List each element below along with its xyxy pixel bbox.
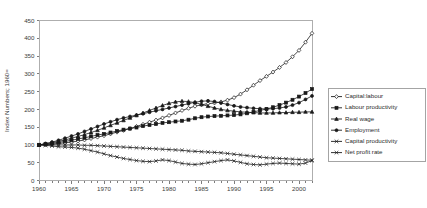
y-tick-label: 100 [24,141,35,148]
legend-label: Real wage [345,115,375,122]
y-tick-label: 400 [24,34,35,41]
y-axis: 050100150200250300350400450 [24,17,39,184]
x-tick-label: 2000 [292,185,306,192]
y-axis-title: Index Numbers; 1960= [3,69,10,132]
x-tick-label: 1970 [97,185,111,192]
legend-label: Net profit rate [345,148,383,155]
chart-container: 050100150200250300350400450 196019651970… [0,0,427,208]
legend-label: Capital productivity [345,137,398,144]
line-chart: 050100150200250300350400450 196019651970… [0,0,427,208]
y-tick-label: 350 [24,52,35,59]
x-axis: 196019651970197519801985199019952000 [32,181,312,193]
y-tick-label: 150 [24,123,35,130]
y-tick-label: 250 [24,88,35,95]
legend-label: Capital:labour [345,92,383,99]
series-capital-productivity [37,143,314,162]
legend-label: Labour productivity [345,103,398,110]
y-tick-label: 450 [24,17,35,24]
x-tick-label: 1990 [227,185,241,192]
y-tick-label: 0 [31,177,35,184]
x-tick-label: 1995 [260,185,274,192]
x-tick-label: 1975 [130,185,144,192]
chart-legend: Capital:labourLabour productivityReal wa… [328,88,425,161]
series-layer [37,31,314,166]
y-tick-label: 200 [24,106,35,113]
x-tick-label: 1980 [162,185,176,192]
x-tick-label: 1985 [195,185,209,192]
x-tick-label: 1960 [32,185,46,192]
series-net-profit-rate [37,143,314,167]
y-tick-label: 300 [24,70,35,77]
legend-label: Employment [345,126,380,133]
x-tick-label: 1965 [65,185,79,192]
series-capital-labour [37,31,314,147]
y-tick-label: 50 [28,159,35,166]
